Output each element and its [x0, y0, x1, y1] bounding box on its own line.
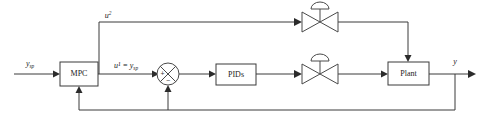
label-u2-sup: 2	[109, 10, 112, 16]
valve-upper-right-triangle-icon	[320, 12, 338, 32]
block-diagram-canvas: MPC PIDs Plant + −	[0, 0, 486, 121]
valve-upper-left-triangle-icon	[302, 12, 320, 32]
arrowhead-lower-valve-input	[294, 70, 302, 78]
valve-upper[interactable]	[302, 2, 338, 32]
arrowhead-sum-minus-input	[165, 85, 172, 92]
arrowhead-plant-left-input	[381, 71, 388, 78]
block-plant-label: Plant	[400, 69, 417, 78]
label-setpoint-input: ysp	[25, 59, 35, 69]
label-output-y-base: y	[452, 57, 457, 66]
block-pids[interactable]: PIDs	[216, 64, 256, 85]
valve-lower-right-triangle-icon	[320, 64, 338, 84]
block-plant[interactable]: Plant	[388, 62, 429, 85]
block-pids-label: PIDs	[228, 70, 244, 79]
valve-lower-left-triangle-icon	[302, 64, 320, 84]
svg-text:ysp: ysp	[25, 59, 35, 69]
valve-lower-actuator-dome-icon	[311, 54, 329, 61]
label-output-y: y	[452, 57, 457, 66]
summing-junction-plus-sign: +	[160, 70, 164, 77]
label-u1-equals-ysp: u¹ = ysp	[114, 61, 138, 71]
control-system-diagram: MPC PIDs Plant + −	[0, 0, 486, 121]
arrowhead-mpc-bottom-input	[76, 86, 83, 93]
valve-upper-actuator-dome-icon	[311, 2, 329, 9]
svg-text:u2: u2	[105, 10, 112, 20]
arrowhead-pids-input	[209, 71, 216, 78]
svg-text:u¹ = ysp: u¹ = ysp	[114, 61, 138, 71]
label-setpoint-sub: sp	[29, 63, 34, 69]
block-mpc[interactable]: MPC	[60, 62, 98, 86]
arrowhead-plant-top-input	[405, 55, 412, 62]
arrowhead-mpc-input	[53, 71, 60, 78]
arrowhead-output-y	[468, 70, 476, 78]
summing-junction[interactable]: + −	[157, 63, 179, 85]
block-mpc-label: MPC	[71, 69, 88, 78]
label-u1-text: u¹ = y	[114, 61, 134, 70]
summing-junction-minus-sign: −	[166, 77, 170, 84]
label-u2: u2	[105, 10, 112, 20]
label-u1-sub: sp	[133, 65, 138, 71]
valve-lower[interactable]	[302, 54, 338, 84]
arrowhead-upper-valve-input	[294, 18, 302, 26]
